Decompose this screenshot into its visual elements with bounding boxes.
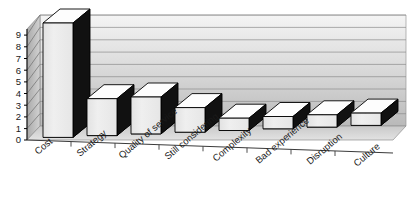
y-tick-label: 6 — [16, 65, 21, 76]
y-tick-label: 0 — [16, 134, 21, 145]
chart-container: 0 1 2 3 4 5 6 7 8 9 — [0, 0, 417, 213]
plot-left-wall — [27, 15, 40, 140]
bar-chart-3d: 0 1 2 3 4 5 6 7 8 9 — [0, 0, 417, 213]
y-tick-label: 2 — [16, 111, 21, 122]
y-tick-label: 7 — [16, 53, 21, 64]
y-tick-label: 1 — [16, 123, 21, 134]
y-tick-labels: 0 1 2 3 4 5 6 7 8 9 — [16, 29, 21, 145]
y-tick-label: 5 — [16, 76, 21, 87]
y-tick-label: 8 — [16, 41, 21, 52]
y-tick-label: 3 — [16, 100, 21, 111]
bar-strategy[interactable] — [87, 85, 134, 136]
y-tick-label: 9 — [16, 29, 21, 40]
x-tick-label-culture: Culture — [351, 140, 382, 168]
bar-cost[interactable] — [43, 9, 90, 137]
y-axis — [24, 29, 27, 140]
y-tick-label: 4 — [16, 88, 21, 99]
